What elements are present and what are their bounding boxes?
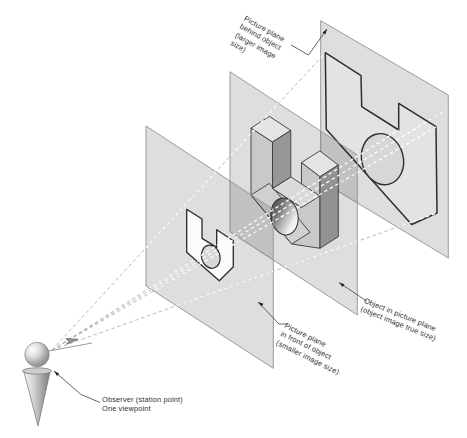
label-observer-station-point: Observer (station point) One viewpoint [102, 395, 183, 414]
leader-observer [54, 371, 100, 403]
line-of-sight [49, 343, 92, 351]
observer-cone [24, 372, 50, 426]
diagram-canvas [0, 0, 467, 438]
perspective-projection-diagram: Picture plane behind object (larger imag… [0, 0, 467, 438]
observer-eye-sphere [25, 342, 49, 366]
observer-flange [23, 368, 52, 374]
object-right-side-face [320, 165, 338, 248]
observer-station-point [23, 339, 79, 426]
